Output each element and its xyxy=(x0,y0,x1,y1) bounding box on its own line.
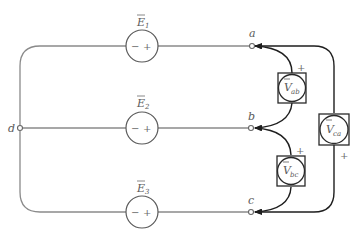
source-e3-minus: − xyxy=(131,207,139,218)
source-e1-plus: + xyxy=(143,41,151,52)
source-e2: − + E 2 xyxy=(126,96,158,144)
source-e2-subscript: 2 xyxy=(144,103,150,111)
source-e1-minus: − xyxy=(131,41,139,52)
source-e3-symbol: E xyxy=(136,182,145,195)
node-b-label: b xyxy=(248,110,255,123)
wire-d-to-e3 xyxy=(20,131,126,212)
source-e1: − + E 1 xyxy=(126,15,158,62)
node-c-label: c xyxy=(248,194,254,207)
voltmeter-vab-polarity: + xyxy=(297,62,305,73)
voltmeter-vbc-subscript: bc xyxy=(290,171,298,179)
source-e3: − + E 3 xyxy=(126,181,158,228)
source-e1-symbol: E xyxy=(136,16,145,29)
wire-d-to-e1 xyxy=(20,46,126,128)
lead-vab-to-a xyxy=(255,46,292,73)
lead-vab-to-b xyxy=(255,103,292,128)
node-a-label: a xyxy=(249,27,256,40)
lead-vbc-to-b xyxy=(255,128,291,155)
node-d xyxy=(18,126,23,131)
node-a xyxy=(250,44,255,49)
source-e1-subscript: 1 xyxy=(145,22,149,30)
circuit-diagram: − + E 1 − + E 2 − + E 3 V ab xyxy=(0,0,355,236)
source-e2-symbol: E xyxy=(136,97,145,110)
voltmeter-vca-polarity: + xyxy=(340,150,348,161)
source-e3-subscript: 3 xyxy=(145,188,150,196)
source-e2-minus: − xyxy=(131,123,139,134)
lead-vbc-to-c xyxy=(255,187,291,212)
node-b xyxy=(249,126,254,131)
source-e2-plus: + xyxy=(143,123,151,134)
voltmeter-vbc-polarity: + xyxy=(296,145,304,156)
voltmeter-vca-subscript: ca xyxy=(333,130,341,138)
node-d-label: d xyxy=(8,122,15,135)
voltmeter-vab-subscript: ab xyxy=(291,88,300,96)
node-c xyxy=(249,210,254,215)
source-e3-plus: + xyxy=(143,207,151,218)
